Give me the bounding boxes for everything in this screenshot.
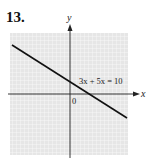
y-axis-label: y <box>67 12 71 23</box>
equation-label: 3x + 5x = 10 <box>79 76 123 86</box>
graph <box>0 0 146 163</box>
y-axis-arrow-icon <box>68 24 73 31</box>
x-axis-label: x <box>141 88 145 99</box>
origin-label: 0 <box>72 96 76 106</box>
x-axis-arrow-icon <box>133 92 140 97</box>
